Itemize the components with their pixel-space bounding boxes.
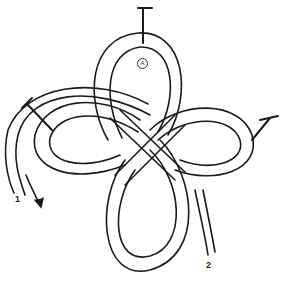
top-loop [94,33,181,140]
right-tick [252,116,278,140]
knot-diagram [0,0,285,287]
right-loop [150,108,253,176]
end-2-label: 2 [206,260,211,270]
end-1-label: 1 [15,194,20,204]
end-2-strands [195,190,215,255]
center-weave [110,110,185,185]
top-loop-marker: A [137,58,148,69]
top-tick [138,8,152,43]
bottom-loop [106,140,188,271]
